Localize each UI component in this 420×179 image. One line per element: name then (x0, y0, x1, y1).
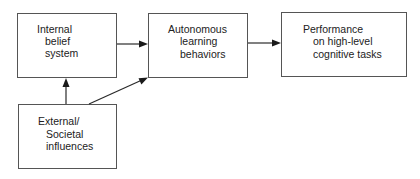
arrowhead-icon (63, 78, 70, 87)
arrow-external-to-autonomous (89, 78, 148, 105)
arrowhead-icon (139, 78, 149, 85)
node-external-societal-influences: External/ Societal influences (18, 104, 117, 169)
arrow-internal-to-autonomous (117, 41, 148, 48)
node-label-line: cognitive tasks (313, 48, 382, 60)
flow-diagram: Internal belief system Autonomous learni… (0, 0, 420, 179)
node-label-line: Internal (37, 23, 72, 35)
arrowhead-icon (139, 41, 148, 48)
node-label-line: belief (45, 35, 70, 47)
node-label-line: Societal (46, 128, 83, 140)
node-autonomous-learning-behaviors: Autonomous learning behaviors (148, 13, 248, 78)
node-label-line: Performance (303, 23, 363, 35)
node-label-line: behaviors (180, 48, 226, 60)
node-internal-belief-system: Internal belief system (17, 13, 117, 78)
node-label-line: on high-level (313, 35, 373, 47)
node-label-line: Autonomous (168, 23, 227, 35)
arrow-autonomous-to-performance (248, 40, 281, 47)
arrow-external-to-internal (63, 78, 70, 104)
node-label-line: External/ (38, 115, 79, 127)
node-label-line: influences (46, 140, 93, 152)
arrowhead-icon (272, 40, 281, 47)
node-label-line: learning (180, 35, 217, 47)
node-performance-high-level-tasks: Performance on high-level cognitive task… (281, 12, 407, 77)
node-label-line: system (45, 47, 78, 59)
